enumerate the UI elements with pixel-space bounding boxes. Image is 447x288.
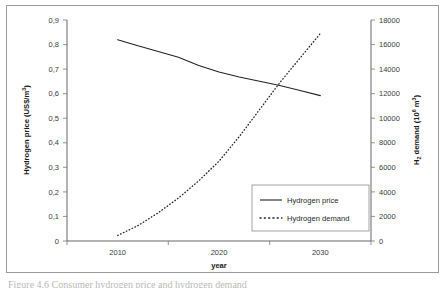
left-tick-label: 0 bbox=[55, 237, 59, 246]
left-tick-label: 0,5 bbox=[49, 114, 59, 123]
hydrogen-price-demand-chart: 0 0,1 0,2 0,3 0,4 0,5 0,6 0,7 0,8 0,9 bbox=[7, 6, 438, 272]
right-tick-label: 14000 bbox=[379, 65, 400, 74]
chart-frame: 0 0,1 0,2 0,3 0,4 0,5 0,6 0,7 0,8 0,9 bbox=[6, 5, 439, 273]
left-axis-title-tail: ) bbox=[22, 85, 31, 88]
x-axis-title: year bbox=[211, 261, 227, 270]
right-axis-tick-labels: 0 2000 4000 6000 8000 10000 12000 14000 … bbox=[379, 16, 400, 246]
right-tick-label: 6000 bbox=[379, 163, 396, 172]
right-tick-label: 0 bbox=[379, 237, 383, 246]
left-tick-label: 0,3 bbox=[49, 163, 59, 172]
left-tick-label: 0,2 bbox=[49, 188, 59, 197]
left-axis-title: Hydrogen price (US$/m3) bbox=[21, 85, 31, 175]
left-axis-tick-labels: 0 0,1 0,2 0,3 0,4 0,5 0,6 0,7 0,8 0,9 bbox=[49, 16, 59, 246]
svg-text:H2 demand (106 m3): H2 demand (106 m3) bbox=[411, 94, 422, 165]
x-axis-tick-labels: 2010 2020 2030 bbox=[109, 248, 328, 257]
x-axis-ticks bbox=[67, 241, 371, 245]
x-tick-label: 2010 bbox=[109, 248, 126, 257]
svg-text:Hydrogen price (US$/m3): Hydrogen price (US$/m3) bbox=[21, 85, 31, 175]
legend-box bbox=[252, 185, 369, 231]
right-axis-title-mid: demand (10 bbox=[412, 112, 421, 156]
legend-label-hydrogen-demand: Hydrogen demand bbox=[287, 214, 349, 223]
right-tick-label: 8000 bbox=[379, 138, 396, 147]
left-tick-label: 0,4 bbox=[49, 138, 59, 147]
right-tick-label: 4000 bbox=[379, 188, 396, 197]
left-axis-ticks bbox=[63, 20, 67, 241]
left-tick-label: 0,7 bbox=[49, 65, 59, 74]
left-tick-label: 0,6 bbox=[49, 89, 59, 98]
right-tick-label: 2000 bbox=[379, 212, 396, 221]
chart-legend[interactable]: Hydrogen price Hydrogen demand bbox=[252, 185, 369, 231]
right-tick-label: 16000 bbox=[379, 40, 400, 49]
right-tick-label: 12000 bbox=[379, 89, 400, 98]
x-tick-label: 2030 bbox=[312, 248, 329, 257]
right-axis-ticks bbox=[371, 20, 375, 241]
right-axis-title-tail: m bbox=[412, 100, 421, 109]
x-tick-label: 2020 bbox=[211, 248, 228, 257]
right-axis-title: H2 demand (106 m3) bbox=[411, 94, 422, 165]
left-tick-label: 0,9 bbox=[49, 16, 59, 25]
legend-label-hydrogen-price: Hydrogen price bbox=[287, 196, 339, 205]
left-axis-title-main: Hydrogen price (US$/m bbox=[22, 91, 31, 175]
figure-container: 0 0,1 0,2 0,3 0,4 0,5 0,6 0,7 0,8 0,9 bbox=[0, 0, 447, 288]
left-tick-label: 0,8 bbox=[49, 40, 59, 49]
right-axis-title-end: ) bbox=[412, 94, 421, 97]
left-tick-label: 0,1 bbox=[49, 212, 59, 221]
right-tick-label: 18000 bbox=[379, 16, 400, 25]
right-tick-label: 10000 bbox=[379, 114, 400, 123]
figure-caption-fragment: Figure 4.6 Consumer hydrogen price and h… bbox=[8, 279, 308, 288]
